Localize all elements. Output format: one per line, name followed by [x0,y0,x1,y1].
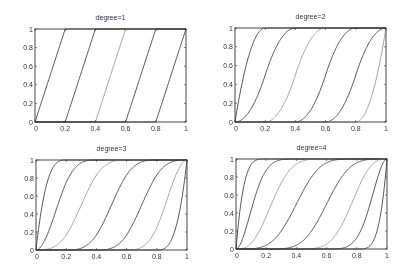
curve-line [236,159,387,249]
x-tick-label: 0.6 [322,252,332,259]
curve-line [236,159,387,249]
curve-line [236,159,387,249]
plot-area: 00.20.40.60.8100.20.40.60.81 [0,0,409,279]
axes-box [236,159,387,249]
x-tick-label: 0.8 [352,252,362,259]
curve-line [236,159,387,249]
x-tick-label: 0 [235,252,239,259]
y-tick-label: 0.8 [224,174,234,181]
x-tick-label: 0.2 [261,252,271,259]
curve-line [236,159,387,249]
y-tick-label: 0.6 [224,192,234,199]
y-tick-label: 1 [230,156,234,163]
curve-line [236,159,387,249]
y-tick-label: 0.2 [224,228,234,235]
x-tick-label: 0.4 [292,252,302,259]
y-tick-label: 0 [230,246,234,253]
curve-line [236,159,387,249]
curve-line [236,159,387,249]
y-tick-label: 0.4 [224,210,234,217]
x-tick-label: 1 [385,252,389,259]
